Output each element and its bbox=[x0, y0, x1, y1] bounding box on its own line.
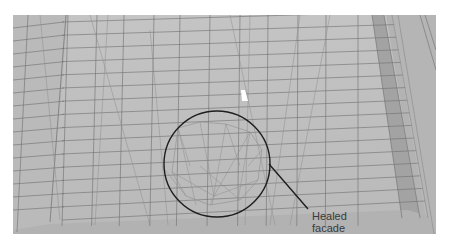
callout-label-line1: Healed bbox=[312, 210, 347, 222]
callout-label-line2: facade bbox=[312, 222, 345, 234]
facade-mesh-figure: Healed facade bbox=[0, 0, 453, 246]
